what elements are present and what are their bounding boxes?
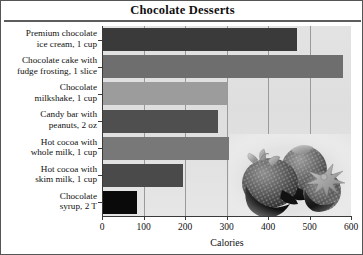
category-label-line: Premium chocolate: [1, 28, 97, 39]
y-tick: [98, 148, 102, 149]
x-tick-300: [227, 216, 228, 220]
category-label-line: Hot cocoa with: [1, 164, 97, 175]
bar-row: [102, 82, 351, 105]
category-label-line: skim milk, 1 cup: [1, 174, 97, 185]
y-axis-line: [102, 26, 103, 217]
x-tick-600: [351, 216, 352, 220]
bar: [102, 28, 297, 51]
category-label-line: Chocolate: [1, 191, 97, 202]
bar-row: [102, 55, 351, 78]
y-tick: [98, 94, 102, 95]
plot-area: [102, 26, 351, 216]
chocolate-dipped-strawberries-photo: [229, 134, 351, 216]
bar: [102, 164, 183, 187]
y-tick: [98, 202, 102, 203]
category-label-line: Chocolate: [1, 82, 97, 93]
x-tick-label: 400: [248, 221, 288, 233]
category-label-line: Hot cocoa with: [1, 137, 97, 148]
y-tick: [98, 40, 102, 41]
category-label: Chocolatesyrup, 2 T: [1, 191, 97, 212]
x-tick-400: [268, 216, 269, 220]
bar: [102, 137, 231, 160]
bar-row: [102, 28, 351, 51]
chart-figure: Chocolate Desserts: [0, 0, 363, 255]
x-tick-label: 300: [207, 221, 247, 233]
chart-title: Chocolate Desserts: [1, 2, 363, 18]
bar: [102, 82, 227, 105]
category-label-line: milkshake, 1 cup: [1, 93, 97, 104]
category-label: Hot cocoa withwhole milk, 1 cup: [1, 137, 97, 158]
category-label-line: whole milk, 1 cup: [1, 147, 97, 158]
x-tick-500: [310, 216, 311, 220]
bar: [102, 191, 137, 214]
title-divider: [4, 20, 361, 22]
category-label-line: fudge frosting, 1 slice: [1, 66, 97, 77]
category-label: Premium chocolateice cream, 1 cup: [1, 28, 97, 49]
category-label-line: peanuts, 2 oz: [1, 120, 97, 131]
category-label-line: ice cream, 1 cup: [1, 39, 97, 50]
category-label-line: Chocolate cake with: [1, 55, 97, 66]
x-tick-label: 500: [290, 221, 330, 233]
bar-row: [102, 110, 351, 133]
y-tick: [98, 67, 102, 68]
x-axis-label: Calories: [102, 236, 352, 249]
x-tick-label: 200: [165, 221, 205, 233]
x-tick-100: [144, 216, 145, 220]
category-label-line: Candy bar with: [1, 109, 97, 120]
category-label: Hot cocoa withskim milk, 1 cup: [1, 164, 97, 185]
category-label: Chocolate cake withfudge frosting, 1 sli…: [1, 55, 97, 76]
y-tick: [98, 175, 102, 176]
category-label: Candy bar withpeanuts, 2 oz: [1, 109, 97, 130]
x-tick-label: 100: [124, 221, 164, 233]
bar: [102, 55, 343, 78]
x-tick-label: 0: [82, 221, 122, 233]
x-tick-0: [102, 216, 103, 220]
category-label: Chocolatemilkshake, 1 cup: [1, 82, 97, 103]
x-tick-200: [185, 216, 186, 220]
bar: [102, 110, 218, 133]
y-tick: [98, 121, 102, 122]
category-label-line: syrup, 2 T: [1, 201, 97, 212]
x-tick-label: 600: [331, 221, 363, 233]
